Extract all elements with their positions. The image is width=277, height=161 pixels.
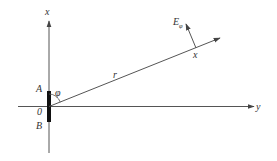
vertical-axis: x — [44, 6, 50, 153]
vertical-axis-label: x — [44, 6, 50, 17]
antenna-diagram: x y A 0 B φ r x Eφ — [0, 0, 277, 161]
antenna-top-label: A — [35, 83, 43, 94]
far-point-label: x — [192, 49, 198, 60]
field-vector-subscript: φ — [179, 22, 183, 29]
field-vector-arrow — [186, 24, 196, 48]
horizontal-axis-label: y — [255, 101, 261, 112]
field-vector-label: Eφ — [172, 16, 183, 29]
angle-label: φ — [55, 87, 61, 98]
origin-label: 0 — [37, 106, 42, 117]
antenna-bottom-label: B — [36, 120, 42, 131]
radius-ray: r x — [49, 38, 220, 107]
radius-label: r — [113, 69, 117, 80]
field-vector-e-phi: Eφ — [172, 16, 196, 48]
horizontal-axis: y — [18, 101, 261, 112]
field-vector-letter: E — [172, 16, 179, 27]
